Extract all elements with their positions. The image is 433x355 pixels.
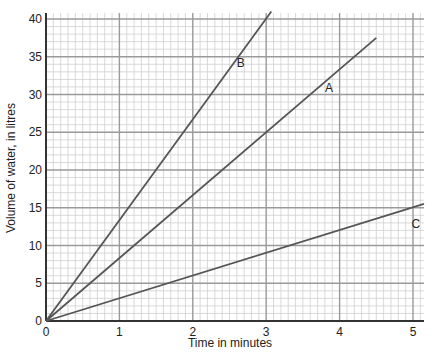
y-tick-label: 35 — [29, 50, 43, 64]
y-tick-label: 15 — [29, 201, 43, 215]
y-tick-label: 5 — [35, 276, 42, 290]
axes — [46, 13, 424, 321]
x-tick-label: 5 — [410, 325, 417, 339]
series-label-a: A — [325, 81, 333, 95]
data-series — [46, 11, 424, 321]
minor-gridlines — [46, 13, 424, 321]
major-gridlines — [46, 13, 424, 321]
x-tick-label: 4 — [336, 325, 343, 339]
y-tick-label: 10 — [29, 239, 43, 253]
y-tick-label: 0 — [35, 314, 42, 328]
x-tick-label: 1 — [116, 325, 123, 339]
y-tick-label: 25 — [29, 125, 43, 139]
y-tick-label: 40 — [29, 12, 43, 26]
series-label-c: C — [412, 217, 421, 231]
x-tick-label: 0 — [43, 325, 50, 339]
series-line-c — [46, 204, 424, 321]
y-tick-label: 30 — [29, 88, 43, 102]
y-axis-tick-labels: 0510152025303540 — [29, 12, 43, 328]
series-labels: ABC — [237, 56, 421, 232]
x-axis-title: Time in minutes — [188, 336, 272, 350]
y-axis-title: Volume of water, in litres — [4, 103, 18, 233]
line-chart: 012345 0510152025303540 ABC Time in minu… — [0, 0, 433, 355]
series-label-b: B — [237, 56, 245, 70]
y-tick-label: 20 — [29, 163, 43, 177]
